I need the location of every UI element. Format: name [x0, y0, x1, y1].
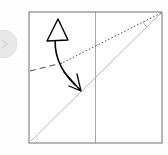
- origami-fold-diagram: [0, 0, 168, 155]
- diagram-canvas: [0, 0, 168, 155]
